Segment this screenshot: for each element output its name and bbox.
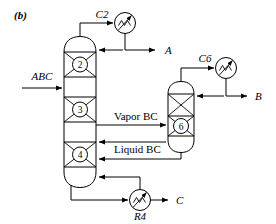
tray-label-3: 3 bbox=[78, 105, 83, 115]
liquid-BC-label-text: Liquid BC bbox=[114, 143, 161, 155]
side-column: 6 bbox=[168, 82, 194, 153]
vapor-BC-label-text: Vapor BC bbox=[114, 110, 158, 122]
feed-label: ABC bbox=[31, 70, 53, 82]
tray-label-2: 2 bbox=[78, 60, 83, 70]
reboiler-R4-tag: R4 bbox=[133, 210, 147, 222]
overhead-vapor-line bbox=[80, 23, 113, 37]
condenser-C6-tag: C6 bbox=[199, 52, 212, 64]
diagram-canvas: 2 3 4 6 bbox=[0, 0, 276, 224]
tray-label-4: 4 bbox=[78, 150, 83, 160]
main-column: 2 3 4 bbox=[64, 37, 96, 188]
product-C-label: C bbox=[176, 194, 184, 206]
side-column-shell bbox=[168, 82, 194, 153]
reboiler-vapor-return-line bbox=[99, 177, 140, 190]
side-overhead-vapor-line bbox=[181, 68, 214, 82]
panel-label: (b) bbox=[14, 9, 27, 22]
product-B-label: B bbox=[255, 90, 262, 102]
process-flow-diagram: 2 3 4 6 bbox=[0, 0, 276, 224]
vapor-BC-label: Vapor BC bbox=[114, 110, 158, 122]
feed-stream: ABC bbox=[22, 70, 62, 88]
condenser-C2-tag: C2 bbox=[96, 8, 109, 20]
vapor-link: Vapor BC bbox=[96, 110, 166, 125]
liquid-BC-label: Liquid BC bbox=[114, 143, 161, 155]
product-A-label: A bbox=[164, 44, 172, 56]
tray-label-6: 6 bbox=[179, 122, 184, 132]
